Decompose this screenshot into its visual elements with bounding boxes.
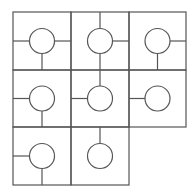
circle-node <box>30 29 55 54</box>
circle-node <box>145 86 170 111</box>
circle-node <box>88 86 113 111</box>
circle-node <box>145 29 170 54</box>
circle-node <box>88 29 113 54</box>
circle-node <box>30 86 55 111</box>
tile-diagram <box>0 0 196 194</box>
tile-grid-svg <box>0 0 196 194</box>
circle-node <box>88 144 113 169</box>
circle-node <box>30 144 55 169</box>
